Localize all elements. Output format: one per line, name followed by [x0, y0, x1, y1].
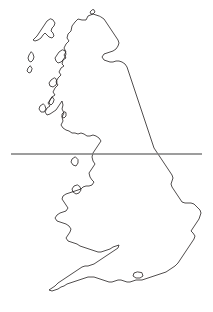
map-background — [0, 0, 213, 312]
map-figure — [0, 0, 213, 312]
map-canvas — [0, 0, 213, 312]
